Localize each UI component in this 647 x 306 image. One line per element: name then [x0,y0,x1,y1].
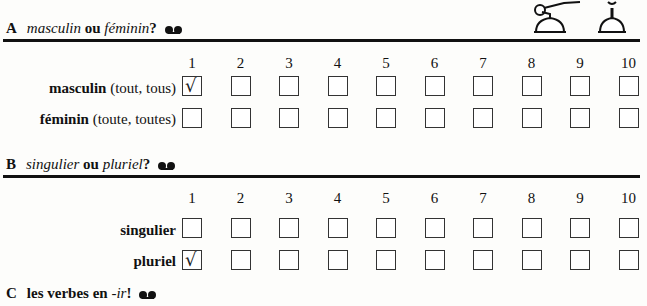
answer-checkbox[interactable] [182,108,202,128]
answer-checkbox[interactable] [231,218,251,238]
answer-checkbox[interactable] [619,108,639,128]
answer-checkbox[interactable] [231,76,251,96]
answer-checkbox[interactable] [570,76,590,96]
section-a-rule [3,39,640,42]
answer-checkbox[interactable] [619,218,639,238]
answer-checkbox[interactable] [231,250,251,270]
answer-checkbox[interactable] [376,218,396,238]
cartoon-illustration [520,0,640,36]
section-b-heading: Bsingulier ou pluriel? [6,156,176,173]
column-number: 2 [230,190,252,207]
answer-checkbox[interactable] [570,250,590,270]
column-number: 4 [327,55,349,72]
column-number: 1 [181,190,203,207]
row-label-singulier: singulier [120,222,176,239]
answer-checkbox[interactable]: √ [182,250,202,270]
column-number: 9 [569,190,591,207]
answer-checkbox[interactable] [570,108,590,128]
answer-checkbox[interactable] [522,108,542,128]
answer-checkbox[interactable] [425,218,445,238]
answer-checkbox[interactable] [522,218,542,238]
column-number: 5 [375,55,397,72]
answer-checkbox[interactable] [473,76,493,96]
column-number: 6 [424,190,446,207]
cassette-tape-icon [158,161,176,170]
row-label-pluriel: pluriel [133,253,176,270]
answer-checkbox[interactable] [231,108,251,128]
column-number: 8 [521,190,543,207]
section-c-heading: Cles verbes en -ir! [6,285,157,302]
column-number: 3 [278,55,300,72]
answer-checkbox[interactable] [279,218,299,238]
answer-checkbox[interactable] [376,76,396,96]
row-label-masculin: masculin (tout, tous) [49,80,176,97]
answer-checkbox[interactable] [619,250,639,270]
checkmark-icon: √ [185,250,196,270]
answer-checkbox[interactable]: √ [182,76,202,96]
column-number: 6 [424,55,446,72]
answer-checkbox[interactable] [328,76,348,96]
answer-checkbox[interactable] [279,76,299,96]
answer-checkbox[interactable] [619,76,639,96]
answer-checkbox[interactable] [279,250,299,270]
cassette-tape-icon [139,290,157,299]
answer-checkbox[interactable] [570,218,590,238]
answer-checkbox[interactable] [522,250,542,270]
column-number: 8 [521,55,543,72]
answer-checkbox[interactable] [376,108,396,128]
column-number: 3 [278,190,300,207]
section-letter: A [6,20,17,36]
answer-checkbox[interactable] [473,108,493,128]
answer-checkbox[interactable] [522,76,542,96]
column-number: 5 [375,190,397,207]
answer-checkbox[interactable] [425,76,445,96]
column-number: 4 [327,190,349,207]
column-number: 9 [569,55,591,72]
answer-checkbox[interactable] [376,250,396,270]
answer-checkbox[interactable] [473,218,493,238]
section-a-heading: Amasculin ou féminin? [6,20,183,37]
answer-checkbox[interactable] [425,108,445,128]
answer-checkbox[interactable] [328,250,348,270]
checkmark-icon: √ [185,76,196,96]
answer-checkbox[interactable] [425,250,445,270]
answer-checkbox[interactable] [473,250,493,270]
column-number: 7 [472,190,494,207]
answer-checkbox[interactable] [328,108,348,128]
column-number: 2 [230,55,252,72]
answer-checkbox[interactable] [279,108,299,128]
row-label-feminin: féminin (toute, toutes) [40,111,176,128]
column-number: 7 [472,55,494,72]
column-number: 10 [618,55,640,72]
answer-checkbox[interactable] [328,218,348,238]
section-b-rule [3,175,640,178]
column-number: 10 [618,190,640,207]
column-number: 1 [181,55,203,72]
cassette-tape-icon [165,25,183,34]
answer-checkbox[interactable] [182,218,202,238]
